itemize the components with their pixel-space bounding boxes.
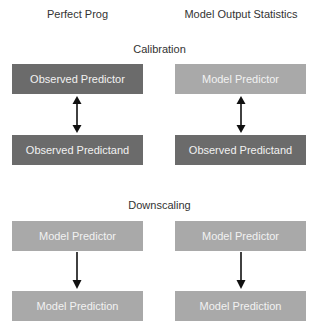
calibration-right-model-predictor-box: Model Predictor (175, 64, 306, 94)
column-title-model-output-statistics: Model Output Statistics (160, 8, 319, 20)
downscaling-left-model-predictor-box: Model Predictor (12, 221, 143, 251)
column-title-perfect-prog: Perfect Prog (12, 8, 143, 20)
section-title-calibration: Calibration (0, 43, 319, 55)
downscaling-left-model-prediction-box: Model Prediction (12, 291, 143, 321)
calibration-left-observed-predictor-box: Observed Predictor (12, 64, 143, 94)
downscaling-right-model-prediction-box: Model Prediction (175, 291, 306, 321)
calibration-left-observed-predictand-box: Observed Predictand (12, 135, 143, 165)
double-arrow-icon (71, 96, 83, 133)
down-arrow-icon (235, 252, 247, 289)
down-arrow-icon (71, 252, 83, 289)
downscaling-right-model-predictor-box: Model Predictor (175, 221, 306, 251)
double-arrow-icon (235, 96, 247, 133)
calibration-right-observed-predictand-box: Observed Predictand (175, 135, 306, 165)
section-title-downscaling: Downscaling (0, 199, 319, 211)
